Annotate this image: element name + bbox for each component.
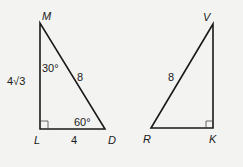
vertex-label-k: K — [209, 133, 217, 145]
side-label-md: 8 — [77, 71, 83, 83]
side-label-rv: 8 — [168, 71, 174, 83]
vertex-label-l: L — [34, 134, 40, 146]
right-angle-marker-k — [206, 121, 213, 128]
triangle-mld: M L D 4√3 8 4 30° 60° — [7, 10, 116, 146]
vertex-label-d: D — [108, 134, 116, 146]
angle-label-m: 30° — [42, 62, 59, 74]
vertex-label-r: R — [143, 133, 151, 145]
vertex-label-v: V — [203, 11, 212, 23]
triangles-diagram: M L D 4√3 8 4 30° 60° V R K 8 — [0, 0, 243, 167]
triangle-mld-outline — [40, 23, 105, 129]
angle-label-d: 60° — [74, 116, 91, 128]
side-label-ld: 4 — [71, 134, 77, 146]
right-angle-marker-l — [40, 121, 48, 129]
vertex-label-m: M — [42, 10, 52, 22]
side-label-ml: 4√3 — [7, 75, 25, 87]
triangle-vrk-outline — [151, 24, 213, 128]
triangle-vrk: V R K 8 — [143, 11, 217, 145]
